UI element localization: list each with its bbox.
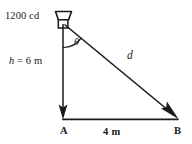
distance-line-stroke [65, 25, 169, 111]
distance-arrowhead-icon [161, 102, 179, 119]
height-label: h = 6 m [9, 56, 42, 67]
luminous-intensity-label: 1200 cd [5, 11, 39, 22]
lighting-geometry-diagram: 1200 cd h = 6 m d θ 4 m A B [0, 0, 192, 144]
point-b-label: B [174, 126, 181, 137]
diagram-canvas [0, 0, 192, 144]
angle-theta-label: θ [74, 37, 79, 48]
base-length-label: 4 m [103, 127, 121, 138]
height-value: = 6 m [14, 55, 42, 66]
lamp-shade-icon [56, 12, 72, 21]
distance-label: d [127, 50, 133, 62]
distance-line [65, 25, 179, 120]
height-line [59, 24, 68, 120]
point-a-label: A [60, 126, 68, 137]
